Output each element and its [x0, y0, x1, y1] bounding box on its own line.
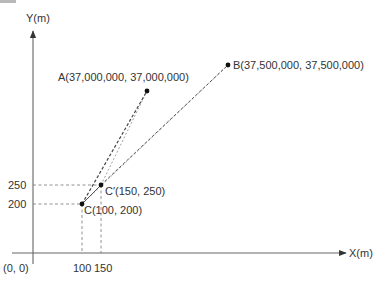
point-a	[145, 89, 150, 94]
point-b	[226, 63, 231, 68]
y-tick-200: 200	[8, 198, 26, 210]
label-c-prime: C′(150, 250)	[105, 185, 165, 197]
point-c-prime	[99, 183, 104, 188]
label-a-coords: (37,000,000, 37,000,000)	[65, 71, 189, 83]
y-tick-250: 250	[8, 179, 26, 191]
line-cprime-a	[101, 91, 147, 185]
line-c-b	[82, 65, 228, 204]
label-b-coords: (37,500,000, 37,500,000)	[240, 59, 364, 71]
label-c-prime-name: C′	[105, 185, 115, 197]
label-b-name: B	[233, 59, 240, 71]
x-axis-label: X(m)	[349, 247, 373, 259]
x-axis-unit: (m)	[356, 247, 373, 259]
line-c-cprime	[82, 185, 101, 204]
x-tick-100: 100	[73, 262, 91, 274]
label-c-coords: (100, 200)	[92, 204, 142, 216]
coordinate-diagram: Y(m) X(m) (0, 0) 100 150 250 200 A(37,00…	[0, 0, 381, 281]
line-cprime-b	[101, 65, 228, 185]
label-c: C(100, 200)	[84, 204, 142, 216]
label-a: A(37,000,000, 37,000,000)	[58, 71, 189, 83]
label-c-prime-coords: (150, 250)	[115, 185, 165, 197]
x-tick-150: 150	[94, 262, 112, 274]
label-b: B(37,500,000, 37,500,000)	[233, 59, 364, 71]
y-axis-unit: (m)	[33, 12, 50, 24]
connection-lines	[82, 65, 228, 204]
y-axis-label: Y(m)	[26, 12, 50, 24]
origin-label: (0, 0)	[3, 262, 29, 274]
label-c-name: C	[84, 204, 92, 216]
